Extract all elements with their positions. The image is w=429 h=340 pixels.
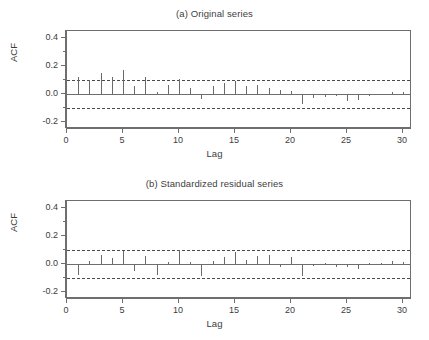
x-axis-tick [346,298,347,303]
acf-spike [134,264,135,271]
acf-spike [358,94,359,100]
panel-a-x-axis: 051015202530 [66,128,411,134]
acf-spike [280,264,281,267]
acf-spike [201,264,202,276]
x-axis-tick-label: 15 [229,135,239,145]
acf-spike [112,77,113,95]
acf-spike [325,94,326,97]
x-axis-tick [290,128,291,133]
x-axis-tick [178,298,179,303]
acf-spike [381,263,382,264]
acf-spike [369,263,370,264]
x-axis-tick [346,128,347,133]
x-axis-tick-label: 10 [173,135,183,145]
acf-spike [168,85,169,94]
panel-a-x-axis-title: Lag [0,148,429,159]
acf-spike [112,258,113,264]
acf-spike [302,264,303,276]
acf-spike [235,252,236,264]
acf-spike [246,260,247,264]
y-axis-tick-label: 0.0 [45,88,58,98]
acf-spike [235,81,236,94]
acf-spike [224,257,225,264]
x-axis-tick [122,298,123,303]
y-axis-tick-label: 0.4 [45,202,58,212]
x-axis-tick [66,128,67,133]
y-axis-tick-label: 0.2 [45,60,58,70]
x-axis-tick [402,128,403,133]
panel-b-title: (b) Standardized residual series [0,178,429,189]
x-axis-tick-label: 5 [119,305,124,315]
x-axis-tick-label: 10 [173,305,183,315]
acf-spike [89,261,90,264]
acf-spike [347,264,348,267]
acf-spike [246,86,247,94]
acf-spike [269,255,270,264]
acf-spike [190,88,191,94]
acf-spike [392,92,393,94]
acf-spike [313,264,314,266]
acf-spike [168,262,169,264]
acf-spike [190,262,191,264]
acf-spike [157,264,158,275]
panel-b-plot-area [66,200,411,298]
panel-b-x-axis: 051015202530 [66,298,411,304]
acf-spike [123,251,124,264]
x-axis-tick-label: 25 [341,305,351,315]
acf-spike [179,250,180,264]
upper-confidence-band [67,250,410,251]
panel-b-plot-inner [67,201,410,297]
y-axis-tick-label: 0.0 [45,258,58,268]
x-axis-tick [402,298,403,303]
acf-spike [89,80,90,94]
acf-spike [257,256,258,264]
acf-spike [78,77,79,94]
acf-spike [336,94,337,96]
x-axis-tick [290,298,291,303]
acf-spike [302,94,303,104]
upper-confidence-band [67,80,410,81]
x-axis-tick [122,128,123,133]
acf-spike [179,79,180,94]
acf-panel-original-series: (a) Original series ACF 0.40.20.0-0.2 05… [0,0,429,170]
acf-spike [145,256,146,264]
acf-spike [392,261,393,264]
acf-spike [101,255,102,264]
acf-spike [403,262,404,264]
x-axis-tick-label: 15 [229,305,239,315]
acf-spike [134,86,135,94]
acf-spike [213,86,214,94]
y-axis-tick-label: -0.2 [42,116,58,126]
acf-spike [291,91,292,94]
acf-spike [280,90,281,94]
acf-spike [257,85,258,94]
panel-b-y-axis-title: ACF [8,213,19,232]
lower-confidence-band [67,278,410,279]
acf-spike [347,94,348,101]
acf-spike [358,264,359,269]
x-axis-tick [178,128,179,133]
acf-spike [101,73,102,94]
y-axis-tick-label: 0.2 [45,230,58,240]
acf-spike [381,94,382,95]
y-axis-tick-label: -0.2 [42,286,58,296]
x-axis-tick-label: 0 [63,305,68,315]
x-axis-tick-label: 25 [341,135,351,145]
acf-spike [325,263,326,264]
panel-a-plot-inner [67,31,410,127]
acf-spike [157,92,158,94]
x-axis-tick [234,298,235,303]
acf-spike [224,83,225,94]
x-axis-tick-label: 30 [397,135,407,145]
x-axis-tick [234,128,235,133]
y-axis-tick-label: 0.4 [45,32,58,42]
acf-spike [291,257,292,264]
panel-a-title: (a) Original series [0,8,429,19]
x-axis-tick-label: 20 [285,135,295,145]
acf-spike [145,77,146,94]
acf-spike [403,92,404,94]
panel-b-x-axis-title: Lag [0,318,429,329]
x-axis-spine [66,128,411,129]
x-axis-tick [66,298,67,303]
acf-spike [369,94,370,96]
